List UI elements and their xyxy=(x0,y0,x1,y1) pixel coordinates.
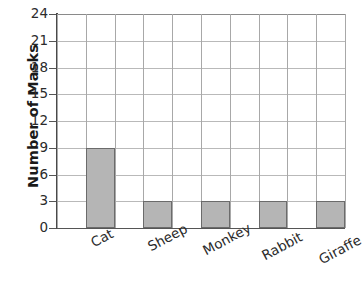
bar xyxy=(259,201,287,228)
y-axis-tick-label: 12 xyxy=(22,114,48,128)
bar xyxy=(143,201,172,228)
gridline-vertical xyxy=(259,14,260,228)
x-axis-tick-labels: CatSheepMonkeyRabbitGiraffe xyxy=(0,229,356,289)
x-axis-tick-label: Giraffe xyxy=(316,231,363,267)
gridline-vertical xyxy=(287,14,288,228)
y-axis-tick-label: 6 xyxy=(22,168,48,182)
y-axis-tick-label: 15 xyxy=(22,87,48,101)
y-axis-tick-label: 21 xyxy=(22,34,48,48)
gridline-vertical xyxy=(230,14,231,228)
gridline-vertical xyxy=(316,14,317,228)
bar xyxy=(86,148,115,228)
gridline-vertical xyxy=(143,14,144,228)
gridline-vertical xyxy=(57,14,58,228)
x-axis-tick-label: Cat xyxy=(88,225,116,250)
gridline-vertical xyxy=(115,14,116,228)
y-axis-tick-label: 3 xyxy=(22,194,48,208)
gridline-vertical xyxy=(172,14,173,228)
gridline-vertical xyxy=(201,14,202,228)
plot-area xyxy=(57,14,345,228)
gridline-vertical xyxy=(345,14,346,228)
y-axis-tick-label: 18 xyxy=(22,61,48,75)
bar xyxy=(316,201,345,228)
y-axis-tick-label: 9 xyxy=(22,141,48,155)
x-axis-tick-label: Rabbit xyxy=(259,228,305,263)
y-axis-tick-label: 24 xyxy=(22,7,48,21)
bar xyxy=(201,201,230,228)
